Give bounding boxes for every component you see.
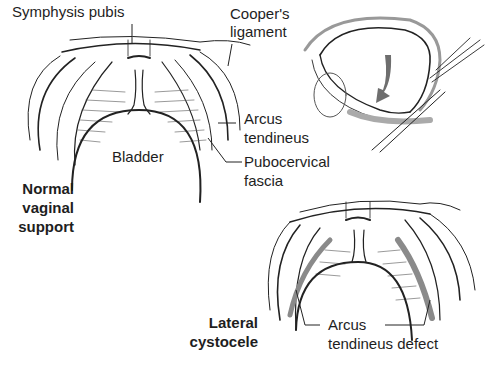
label-pubocervical-fascia-line2: fascia <box>244 172 283 189</box>
panel-title-cystocele-line1: Lateral <box>180 314 258 331</box>
label-coopers-ligament-line2: ligament <box>230 23 287 40</box>
normal-support-drawing <box>28 36 250 202</box>
label-pubocervical-fascia-line1: Pubocervical <box>244 153 330 170</box>
sagittal-bladder-drawing <box>305 18 484 152</box>
label-arcus-tendineus-line2: tendineus <box>244 129 309 146</box>
downward-arrow-icon <box>376 55 391 103</box>
label-arcus-tendineus-line1: Arcus <box>244 110 282 127</box>
panel-title-normal-line1: Normal <box>10 180 74 197</box>
label-symphysis-pubis: Symphysis pubis <box>12 3 125 20</box>
lateral-cystocele-drawing <box>268 201 475 340</box>
label-bladder: Bladder <box>112 148 164 165</box>
panel-title-normal-line2: vaginal <box>10 199 74 216</box>
label-arcus-defect-line1: Arcus <box>328 316 366 333</box>
label-coopers-ligament-line1: Cooper's <box>230 5 290 22</box>
panel-title-cystocele-line2: cystocele <box>180 333 258 350</box>
panel-title-normal-line3: support <box>10 218 74 235</box>
label-arcus-defect-line2: tendineus defect <box>328 335 438 352</box>
